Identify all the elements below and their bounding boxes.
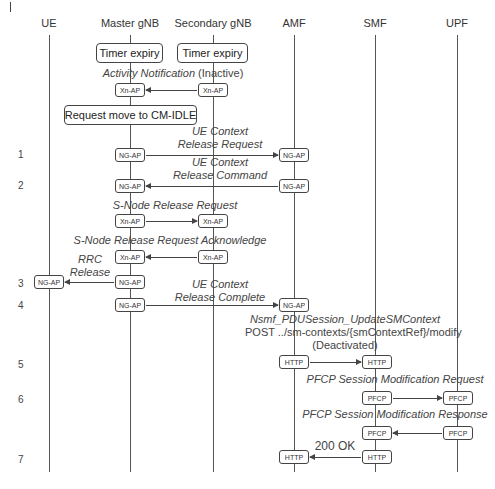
message-arrow [310,362,361,363]
step-number: 6 [18,394,24,405]
step-number: 2 [18,180,24,191]
protocol-box-ngap: NG-AP [115,148,145,162]
protocol-box-xnap: Xn-AP [115,214,145,228]
message-arrow [146,221,197,222]
message-arrow [393,398,442,399]
message-arrow [65,282,114,283]
protocol-box-ngap: NG-AP [34,275,64,289]
lifeline-smf [375,35,376,472]
event-timer-expiry-master: Timer expiry [96,43,163,63]
entity-master-gnb: Master gNB [101,17,159,29]
entity-secondary-gnb: Secondary gNB [174,17,251,29]
protocol-box-xnap: Xn-AP [198,83,228,97]
message-label: UE ContextRelease Request [160,125,280,151]
step-number: 3 [18,278,24,289]
message-label: 200 OK [310,440,360,453]
protocol-box-http: HTTP [362,355,392,369]
protocol-box-http: HTTP [279,450,309,464]
lifeline-upf [457,35,458,472]
protocol-box-ngap: NG-AP [279,298,309,312]
entity-ue: UE [41,17,56,29]
protocol-box-ngap: NG-AP [115,179,145,193]
message-arrow [146,257,197,258]
message-label: S-Node Release Request Acknowledge [70,234,270,247]
message-label: RRCRelease [68,253,112,279]
protocol-box-pfcp: PFCP [443,391,473,405]
step-number: 7 [18,454,24,465]
protocol-box-xnap: Xn-AP [198,250,228,264]
protocol-box-pfcp: PFCP [362,391,392,405]
message-label: PFCP Session Modification Request [300,373,490,386]
lifeline-ue [49,35,50,472]
protocol-box-ngap: NG-AP [115,275,145,289]
message-arrow [146,305,278,306]
message-label: Nsmf_PDUSession_UpdateSMContextPOST ../s… [245,313,445,352]
message-arrow [146,186,278,187]
protocol-box-xnap: Xn-AP [115,83,145,97]
protocol-box-pfcp: PFCP [443,426,473,440]
step-number: 4 [18,300,24,311]
protocol-box-http: HTTP [362,450,392,464]
message-arrow [393,433,442,434]
protocol-box-xnap: Xn-AP [198,214,228,228]
protocol-box-ngap: NG-AP [279,179,309,193]
protocol-box-xnap: Xn-AP [115,250,145,264]
protocol-box-ngap: NG-AP [115,298,145,312]
entity-upf: UPF [446,17,468,29]
protocol-box-pfcp: PFCP [362,426,392,440]
message-label: UE ContextRelease Command [160,156,280,182]
message-label: UE ContextRelease Complete [160,278,280,304]
lifeline-amf [294,35,295,472]
step-number: 5 [18,359,24,370]
event-timer-expiry-secondary: Timer expiry [177,43,248,63]
message-arrow [146,90,197,91]
protocol-box-http: HTTP [279,355,309,369]
protocol-box-ngap: NG-AP [279,148,309,162]
event-request-cm-idle: Request move to CM-IDLE [64,105,197,125]
message-label: S-Node Release Request [100,199,250,212]
step-number: 1 [18,149,24,160]
message-label: Activity Notification (Inactive) [98,67,248,80]
entity-amf: AMF [282,17,305,29]
message-arrow [310,457,361,458]
page-edge-mark [10,2,11,12]
message-label: PFCP Session Modification Response [295,408,495,421]
entity-smf: SMF [363,17,386,29]
